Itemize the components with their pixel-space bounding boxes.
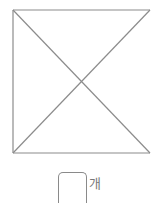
answer-input-box[interactable] — [58, 172, 87, 203]
unit-label: 개 — [89, 176, 101, 192]
triangle-count-figure — [0, 0, 161, 165]
